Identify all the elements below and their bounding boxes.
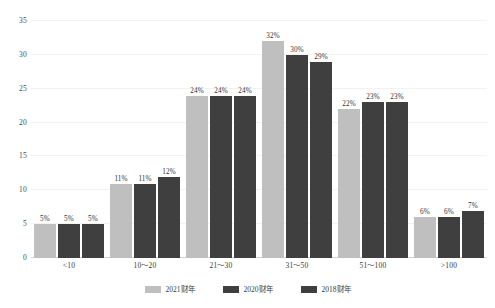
bar[interactable]: 5% [58, 224, 80, 258]
bar-value-label: 32% [266, 33, 279, 40]
bar-slot: 11% [134, 21, 156, 258]
bar-group: 22%23%23% [335, 21, 411, 258]
chart-legend: 2021财年2020财年2018财年 [0, 286, 495, 294]
x-category-label: 31～50 [259, 262, 335, 270]
legend-swatch-icon [223, 286, 239, 293]
y-tick-label-30: 30 [0, 51, 27, 59]
legend-label: 2018财年 [322, 286, 351, 294]
bar-value-label: 23% [366, 94, 379, 101]
bar-group: 5%5%5% [31, 21, 107, 258]
y-tick-label-20: 20 [0, 119, 27, 127]
bar[interactable]: 24% [210, 96, 232, 259]
y-tick-label-15: 15 [0, 153, 27, 161]
bar-value-label: 22% [342, 101, 355, 108]
legend-label: 2021财年 [166, 286, 195, 294]
y-tick-label-25: 25 [0, 85, 27, 93]
bar[interactable]: 11% [134, 184, 156, 258]
plot-area: 5%5%5%11%11%12%24%24%24%32%30%29%22%23%2… [31, 21, 487, 258]
bar-value-label: 11% [114, 175, 127, 182]
y-tick-label-35: 35 [0, 17, 27, 25]
bar-slot: 23% [386, 21, 408, 258]
bar-value-label: 7% [468, 202, 478, 209]
bar-value-label: 6% [420, 209, 430, 216]
legend-swatch-icon [301, 286, 317, 293]
bar[interactable]: 5% [34, 224, 56, 258]
bar[interactable]: 22% [338, 109, 360, 258]
bar[interactable]: 12% [158, 177, 180, 258]
bar[interactable]: 7% [462, 211, 484, 258]
bar-slot: 7% [462, 21, 484, 258]
bar-slot: 5% [58, 21, 80, 258]
legend-swatch-icon [145, 286, 161, 293]
x-category-label: >100 [411, 262, 487, 270]
bar-slot: 5% [34, 21, 56, 258]
y-tick-label-10: 10 [0, 187, 27, 195]
bar-value-label: 6% [444, 209, 454, 216]
bar-slot: 11% [110, 21, 132, 258]
bar-group: 32%30%29% [259, 21, 335, 258]
bar[interactable]: 11% [110, 184, 132, 258]
bar-slot: 23% [362, 21, 384, 258]
bar[interactable]: 6% [414, 217, 436, 258]
bar-value-label: 30% [290, 47, 303, 54]
bar-slot: 6% [414, 21, 436, 258]
legend-item[interactable]: 2021财年 [145, 286, 195, 294]
x-axis-category-labels: <1010～2021～3031～5051～100>100 [31, 262, 487, 270]
bar[interactable]: 30% [286, 55, 308, 258]
legend-label: 2020财年 [244, 286, 273, 294]
x-category-label: 10～20 [107, 262, 183, 270]
x-category-label: <10 [31, 262, 107, 270]
bar-value-label: 5% [64, 216, 74, 223]
bar-slot: 12% [158, 21, 180, 258]
bar-value-label: 24% [214, 87, 227, 94]
x-category-label: 21～30 [183, 262, 259, 270]
bar-groups: 5%5%5%11%11%12%24%24%24%32%30%29%22%23%2… [31, 21, 487, 258]
bar[interactable]: 23% [362, 102, 384, 258]
bar-value-label: 5% [88, 216, 98, 223]
y-tick-label-0: 0 [0, 254, 27, 262]
bar-value-label: 23% [390, 94, 403, 101]
bar-slot: 24% [210, 21, 232, 258]
bar[interactable]: 5% [82, 224, 104, 258]
bar-value-label: 24% [190, 87, 203, 94]
bar-slot: 24% [234, 21, 256, 258]
bar-value-label: 29% [314, 53, 327, 60]
bar-group: 11%11%12% [107, 21, 183, 258]
legend-item[interactable]: 2018财年 [301, 286, 351, 294]
bar-slot: 32% [262, 21, 284, 258]
bar-value-label: 12% [162, 169, 175, 176]
bar-slot: 5% [82, 21, 104, 258]
legend-item[interactable]: 2020财年 [223, 286, 273, 294]
bar-value-label: 24% [238, 87, 251, 94]
bar-slot: 30% [286, 21, 308, 258]
y-tick-label-5: 5 [0, 220, 27, 228]
x-category-label: 51～100 [335, 262, 411, 270]
bar-group: 24%24%24% [183, 21, 259, 258]
bar-slot: 24% [186, 21, 208, 258]
bar-group: 6%6%7% [411, 21, 487, 258]
bar[interactable]: 24% [186, 96, 208, 259]
bar[interactable]: 24% [234, 96, 256, 259]
bar[interactable]: 6% [438, 217, 460, 258]
bar-value-label: 11% [138, 175, 151, 182]
y-axis-tick-labels: 05101520253035 [0, 21, 27, 258]
bar[interactable]: 32% [262, 41, 284, 258]
bar-chart: 05101520253035 5%5%5%11%11%12%24%24%24%3… [0, 0, 495, 308]
bar-slot: 22% [338, 21, 360, 258]
bar-value-label: 5% [40, 216, 50, 223]
bar-slot: 29% [310, 21, 332, 258]
bar[interactable]: 29% [310, 62, 332, 258]
bar-slot: 6% [438, 21, 460, 258]
bar[interactable]: 23% [386, 102, 408, 258]
